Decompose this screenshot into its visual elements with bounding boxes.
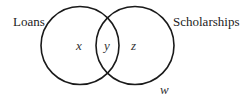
venn-diagram: Loans Scholarships x y z w — [0, 0, 244, 96]
scholarships-label: Scholarships — [173, 14, 239, 29]
region-both-label: y — [102, 38, 110, 53]
venn-svg: Loans Scholarships x y z w — [0, 0, 244, 96]
region-loans-only-label: x — [75, 38, 82, 53]
loans-label: Loans — [13, 14, 45, 29]
region-neither-label: w — [160, 82, 169, 96]
region-scholarships-only-label: z — [130, 38, 136, 53]
